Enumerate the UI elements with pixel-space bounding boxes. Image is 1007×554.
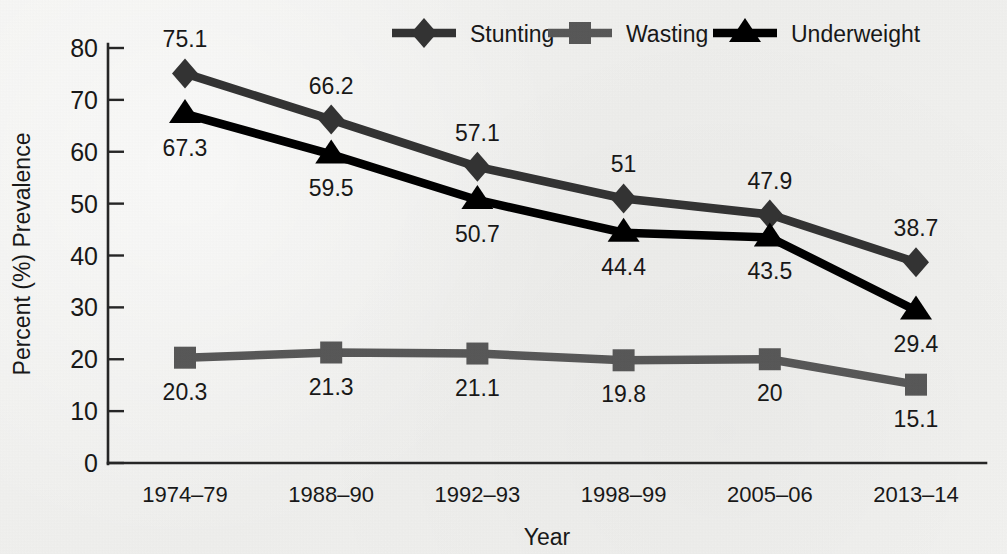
square-marker-icon xyxy=(905,374,927,396)
y-tick-label: 60 xyxy=(70,138,98,166)
x-category-label: 2013–14 xyxy=(873,482,959,507)
square-marker-icon xyxy=(613,349,635,371)
y-tick-label: 40 xyxy=(70,242,98,270)
series-group: 75.166.257.15147.938.720.321.321.119.820… xyxy=(163,26,939,431)
legend-label: Underweight xyxy=(791,21,921,47)
square-marker-icon xyxy=(466,343,488,365)
y-tick-label: 80 xyxy=(70,34,98,62)
data-label: 51 xyxy=(611,151,637,177)
y-tick-label: 20 xyxy=(70,345,98,373)
x-category-label: 1992–93 xyxy=(435,482,521,507)
legend-label: Wasting xyxy=(626,21,708,47)
triangle-marker-icon xyxy=(169,99,201,123)
data-label: 21.1 xyxy=(455,375,500,401)
x-category-label: 2005–06 xyxy=(727,482,813,507)
data-label: 38.7 xyxy=(894,215,939,241)
diamond-marker-icon xyxy=(172,58,198,88)
series-line xyxy=(185,353,916,385)
x-category-label: 1988–90 xyxy=(288,482,374,507)
line-chart-plot: 01020304050607080 Percent (%) Prevalence… xyxy=(0,0,1007,554)
data-label: 59.5 xyxy=(309,175,354,201)
square-marker-icon xyxy=(759,348,781,370)
series-wasting: 20.321.321.119.82015.1 xyxy=(163,342,939,432)
data-label: 66.2 xyxy=(309,73,354,99)
data-label: 43.5 xyxy=(747,258,792,284)
y-tick-label: 0 xyxy=(84,449,98,477)
x-category-label: 1974–79 xyxy=(142,482,228,507)
data-label: 57.1 xyxy=(455,120,500,146)
legend-entry-stunting[interactable]: Stunting xyxy=(392,18,554,48)
diamond-marker-icon xyxy=(318,105,344,135)
data-label: 21.3 xyxy=(309,374,354,400)
data-label: 44.4 xyxy=(601,254,646,280)
diamond-marker-icon xyxy=(464,152,490,182)
chart-legend: StuntingWastingUnderweight xyxy=(392,18,921,48)
axis-group xyxy=(108,44,986,464)
y-axis-ticks: 01020304050607080 xyxy=(70,34,124,477)
y-tick-label: 10 xyxy=(70,397,98,425)
series-line xyxy=(185,73,916,262)
data-label: 15.1 xyxy=(894,406,939,432)
legend-entry-underweight[interactable]: Underweight xyxy=(713,18,921,47)
square-marker-icon xyxy=(320,342,342,364)
diamond-marker-icon xyxy=(903,247,929,277)
y-tick-label: 70 xyxy=(70,86,98,114)
legend-label: Stunting xyxy=(470,21,554,47)
data-label: 75.1 xyxy=(163,26,208,52)
x-axis-title: Year xyxy=(524,524,571,550)
x-axis-category-labels: 1974–791988–901992–931998–992005–062013–… xyxy=(142,482,959,507)
data-label: 20 xyxy=(757,380,783,406)
data-label: 20.3 xyxy=(163,379,208,405)
y-axis-title: Percent (%) Prevalence xyxy=(9,133,35,376)
legend-entry-wasting[interactable]: Wasting xyxy=(548,21,708,47)
chart-container: 01020304050607080 Percent (%) Prevalence… xyxy=(0,0,1007,554)
square-marker-icon xyxy=(569,22,591,44)
data-label: 19.8 xyxy=(601,381,646,407)
data-label: 50.7 xyxy=(455,221,500,247)
series-line xyxy=(185,114,916,311)
data-label: 47.9 xyxy=(747,168,792,194)
diamond-marker-icon xyxy=(411,18,437,48)
series-stunting: 75.166.257.15147.938.7 xyxy=(163,26,939,277)
y-tick-label: 30 xyxy=(70,293,98,321)
data-label: 67.3 xyxy=(163,135,208,161)
x-category-label: 1998–99 xyxy=(581,482,667,507)
data-label: 29.4 xyxy=(894,331,939,357)
y-tick-label: 50 xyxy=(70,190,98,218)
square-marker-icon xyxy=(174,347,196,369)
diamond-marker-icon xyxy=(611,183,637,213)
